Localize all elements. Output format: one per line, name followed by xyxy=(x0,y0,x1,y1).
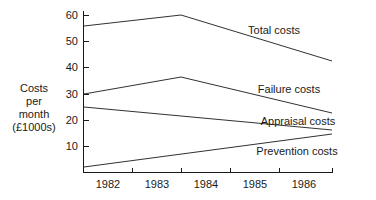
x-axis-ticks xyxy=(84,168,333,173)
x-axis-tick-labels: 1982 1983 1984 1985 1986 xyxy=(96,178,316,190)
y-axis-title-line-4: (£1000s) xyxy=(12,121,55,133)
y-axis-title-line-3: month xyxy=(19,108,50,120)
x-tick-label-1982: 1982 xyxy=(96,178,120,190)
series-label-prevention-costs: Prevention costs xyxy=(256,145,338,157)
y-axis-title-line-2: per xyxy=(26,95,42,107)
y-axis-ticks xyxy=(84,16,89,147)
chart-canvas: 60 50 40 30 20 10 1982 1983 1984 1985 19… xyxy=(0,0,376,200)
y-tick-label-20: 20 xyxy=(66,114,78,126)
x-tick-label-1984: 1984 xyxy=(194,178,218,190)
series-labels: Total costs Failure costs Appraisal cost… xyxy=(248,24,338,157)
y-tick-label-30: 30 xyxy=(66,88,78,100)
x-tick-label-1986: 1986 xyxy=(292,178,316,190)
y-tick-label-40: 40 xyxy=(66,61,78,73)
y-tick-label-60: 60 xyxy=(66,9,78,21)
y-axis-title-line-1: Costs xyxy=(20,82,49,94)
line-chart: 60 50 40 30 20 10 1982 1983 1984 1985 19… xyxy=(0,0,376,200)
x-tick-label-1985: 1985 xyxy=(243,178,267,190)
series-label-failure-costs: Failure costs xyxy=(258,83,321,95)
y-tick-label-50: 50 xyxy=(66,35,78,47)
series-label-total-costs: Total costs xyxy=(248,24,300,36)
series-line-total-costs xyxy=(84,15,332,61)
y-axis-tick-labels: 60 50 40 30 20 10 xyxy=(66,9,78,152)
y-tick-label-10: 10 xyxy=(66,140,78,152)
y-axis-title: Costs per month (£1000s) xyxy=(12,82,55,133)
series-label-appraisal-costs: Appraisal costs xyxy=(261,115,336,127)
x-tick-label-1983: 1983 xyxy=(145,178,169,190)
